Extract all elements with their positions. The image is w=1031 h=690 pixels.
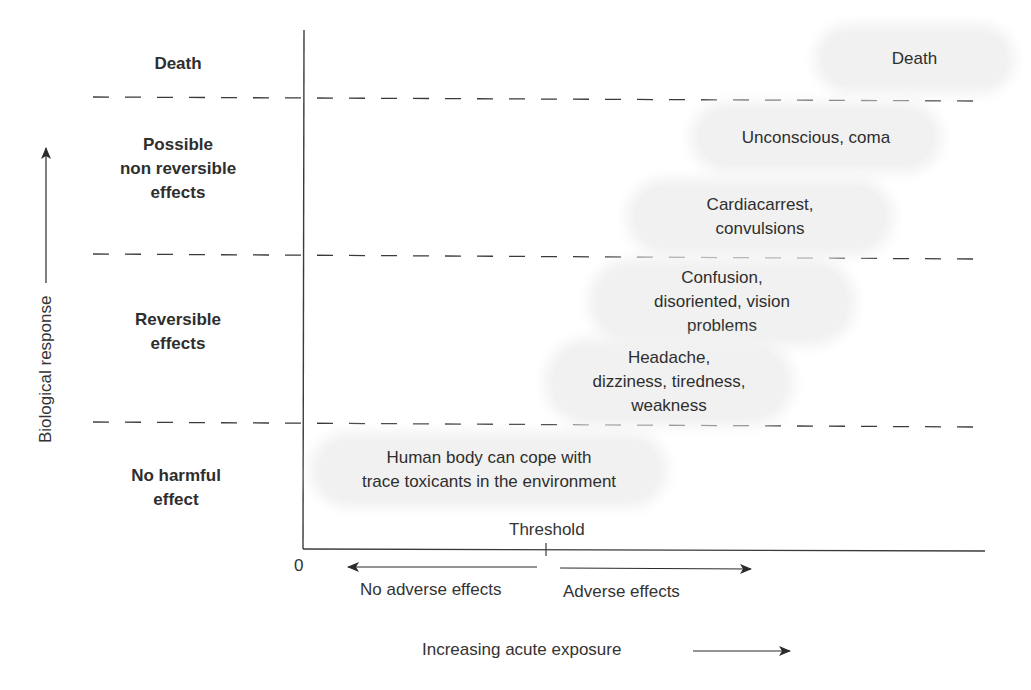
zone-label-no-harm: No harmful effect [76,464,276,512]
effect-text: Human body can cope with trace toxicants… [362,446,616,494]
adverse-arrow [560,568,751,569]
y-axis-line [303,30,304,549]
effect-text: Unconscious, coma [742,126,890,150]
effect-text: Headache, dizziness, tiredness, weakness [592,346,745,418]
effect-text: Confusion, disoriented, vision problems [654,266,790,338]
threshold-label: Threshold [509,520,585,540]
zone-label-reversible: Reversible effects [78,308,278,356]
y-axis-label: Biological response [36,296,56,443]
no-adverse-effects-label: No adverse effects [360,580,501,600]
effect-bubble-no-harm: Human body can cope with trace toxicants… [318,440,660,500]
zone-divider-reversible [93,422,975,427]
figure-caption-clipped [30,683,330,690]
effect-bubble-cardiac: Cardiacarrest, convulsions [634,186,886,248]
zone-divider-nonreversible [93,254,975,259]
zone-label-nonreversible: Possible non reversible effects [78,133,278,205]
zone-divider-death [93,97,975,101]
effect-bubble-headache: Headache, dizziness, tiredness, weakness [552,346,786,418]
effect-text: Cardiacarrest, convulsions [707,193,814,241]
x-axis-label: Increasing acute exposure [422,640,621,660]
zone-label-death: Death [78,52,278,76]
effect-text: Death [892,47,937,71]
effect-bubble-confusion: Confusion, disoriented, vision problems [596,266,848,338]
adverse-effects-label: Adverse effects [563,582,680,602]
origin-label: 0 [294,556,303,576]
x-axis-line [303,549,985,551]
effect-bubble-unconscious: Unconscious, coma [698,110,934,165]
effect-bubble-death: Death [822,32,1007,86]
toxic-response-diagram: Death Unconscious, coma Cardiacarrest, c… [0,0,1031,690]
